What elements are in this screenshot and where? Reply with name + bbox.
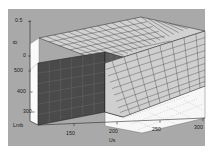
xtick-300: 300 — [194, 124, 203, 130]
z-axis-label: B — [12, 41, 18, 44]
xtick-250: 250 — [152, 126, 161, 132]
ztick-0.5: 0.5 — [15, 17, 23, 23]
ytick-300: 300 — [23, 108, 32, 114]
ytick-500: 500 — [14, 67, 23, 73]
figure-container: 0.5 0 500 400 300 150 200 250 300 Us Lmb… — [0, 0, 213, 155]
xtick-150: 150 — [66, 130, 75, 136]
xtick-200: 200 — [109, 128, 118, 134]
x-axis-label: Us — [109, 137, 115, 143]
step-block-front-face — [38, 52, 105, 125]
surface-plot-canvas — [0, 0, 213, 155]
ytick-400: 400 — [17, 88, 26, 94]
y-axis-label: Lmb — [13, 122, 23, 128]
ztick-0: 0 — [23, 52, 26, 58]
